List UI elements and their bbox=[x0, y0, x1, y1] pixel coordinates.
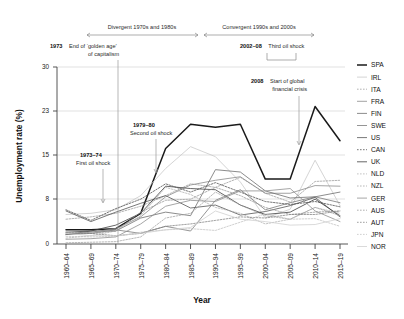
third-oil-shock-bold: 2002–08 bbox=[240, 43, 262, 49]
second-oil-shock-rest: Second oil shock bbox=[130, 130, 172, 136]
golden-age-rest: End of ‘golden age’ bbox=[69, 43, 117, 49]
first-oil-shock-bold: 1973–74 bbox=[80, 152, 103, 158]
legend-label-can[interactable]: CAN bbox=[371, 146, 385, 153]
legend-label-irl[interactable]: IRL bbox=[371, 74, 382, 81]
x-tick-label-0: 1960–64 bbox=[63, 253, 70, 279]
y-tick-label-23: 23 bbox=[42, 107, 50, 114]
x-tick-label-10: 2010–14 bbox=[312, 253, 319, 279]
golden-age-label-line2: of capitalism bbox=[88, 51, 119, 57]
y-tick-label-8: 8 bbox=[45, 195, 49, 202]
x-tick-label-5: 1985–89 bbox=[188, 253, 195, 279]
gfc-bold: 2008 bbox=[251, 78, 263, 84]
x-tick-label-3: 1975–79 bbox=[138, 253, 145, 279]
golden-age-bold: 1973 bbox=[50, 43, 62, 49]
y-tick-label-30: 30 bbox=[42, 63, 50, 70]
x-tick-label-1: 1965–69 bbox=[88, 253, 95, 279]
legend-label-ger[interactable]: GER bbox=[371, 195, 386, 202]
x-axis-title: Year bbox=[193, 295, 211, 305]
legend-label-aus[interactable]: AUS bbox=[371, 207, 385, 214]
convergent-span-label: Convergent 1990s and 2000s bbox=[222, 24, 296, 30]
legend-label-nld[interactable]: NLD bbox=[371, 170, 384, 177]
y-tick-label-15: 15 bbox=[42, 151, 50, 158]
x-tick-label-4: 1980–84 bbox=[163, 253, 170, 279]
x-tick-label-11: 2015–19 bbox=[337, 253, 344, 279]
gfc-rest: Start of global bbox=[270, 78, 305, 84]
legend-label-swe[interactable]: SWE bbox=[371, 122, 387, 129]
legend-label-nzl[interactable]: NZL bbox=[371, 182, 384, 189]
legend-label-nor[interactable]: NOR bbox=[371, 243, 386, 250]
x-tick-label-7: 1995–99 bbox=[237, 253, 244, 279]
x-tick-label-6: 1990–94 bbox=[212, 253, 219, 279]
legend-label-fin[interactable]: FIN bbox=[371, 110, 382, 117]
legend-label-ita[interactable]: ITA bbox=[371, 86, 381, 93]
legend-label-jpn[interactable]: JPN bbox=[371, 231, 384, 238]
second-oil-shock-label: 1979–80 bbox=[133, 122, 155, 128]
legend-label-fra[interactable]: FRA bbox=[371, 98, 385, 105]
first-oil-shock-rest: First oil shock bbox=[76, 160, 110, 166]
divergent-span-label: Divergent 1970s and 1980s bbox=[108, 24, 177, 30]
second-oil-shock-bold: 1979–80 bbox=[133, 122, 155, 128]
third-oil-shock-rest: Third oil shock bbox=[268, 43, 304, 49]
legend-label-aut[interactable]: AUT bbox=[371, 219, 384, 226]
x-tick-label-8: 2000–04 bbox=[262, 253, 269, 279]
x-tick-label-9: 2005–09 bbox=[287, 253, 294, 279]
y-axis-title: Unemployment rate (%) bbox=[14, 109, 24, 203]
y-tick-label-0: 0 bbox=[45, 240, 49, 247]
unemployment-rate-line-chart: 30 23 15 8 0 Unemployment rate (%) 1960–… bbox=[0, 0, 404, 319]
legend-label-uk[interactable]: UK bbox=[371, 158, 381, 165]
legend-label-spa[interactable]: SPA bbox=[371, 61, 384, 68]
legend-label-us[interactable]: US bbox=[371, 134, 381, 141]
first-oil-shock-label: 1973–74 bbox=[80, 152, 103, 158]
chart-svg: 30 23 15 8 0 Unemployment rate (%) 1960–… bbox=[0, 0, 404, 319]
gfc-label-line2: financial crisis bbox=[272, 86, 307, 92]
x-tick-label-2: 1970–74 bbox=[113, 253, 120, 279]
